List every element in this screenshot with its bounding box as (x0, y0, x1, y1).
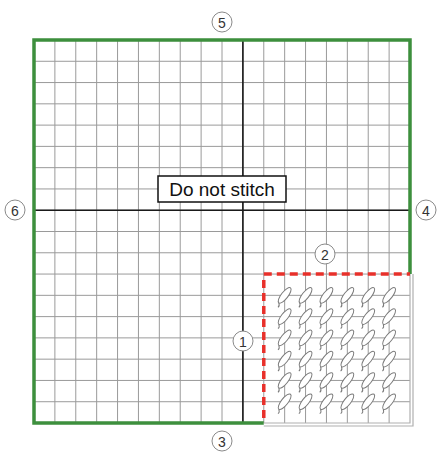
stitch-mark (274, 392, 294, 414)
stitch-mark (274, 286, 294, 308)
stitch-mark (315, 328, 335, 350)
stitch-mark (336, 392, 356, 414)
stitch-mark (357, 392, 377, 414)
stitch-mark (315, 350, 335, 372)
stitch-mark (336, 328, 356, 350)
canvas-diagram: Do not stitch 123456 (0, 0, 447, 462)
marker-number: 4 (422, 203, 430, 219)
stitch-mark (295, 392, 315, 414)
stitch-mark (378, 350, 398, 372)
stitch-mark (357, 307, 377, 329)
label-text: Do not stitch (169, 179, 275, 200)
stitch-mark (378, 392, 398, 414)
marker-number: 1 (239, 334, 247, 350)
marker-number: 2 (321, 247, 329, 263)
step-marker-3: 3 (212, 431, 232, 451)
stitch-marks (274, 286, 398, 415)
stitch-mark (378, 286, 398, 308)
stitch-mark (295, 307, 315, 329)
stitch-mark (357, 350, 377, 372)
stitch-mark (295, 350, 315, 372)
step-marker-5: 5 (212, 12, 232, 32)
stitch-mark (315, 392, 335, 414)
stitch-mark (315, 371, 335, 393)
stitch-mark (295, 286, 315, 308)
step-marker-1: 1 (233, 331, 253, 351)
stitch-mark (378, 307, 398, 329)
stitch-mark (295, 328, 315, 350)
stitch-mark (315, 286, 335, 308)
stitch-mark (378, 328, 398, 350)
stitch-mark (357, 328, 377, 350)
stitch-mark (274, 328, 294, 350)
stitch-mark (315, 307, 335, 329)
stitch-mark (336, 371, 356, 393)
marker-number: 3 (218, 434, 226, 450)
stitch-mark (295, 371, 315, 393)
marker-number: 5 (218, 15, 226, 31)
stitch-mark (336, 350, 356, 372)
stitch-mark (274, 307, 294, 329)
step-marker-4: 4 (416, 200, 436, 220)
stitch-mark (357, 371, 377, 393)
step-marker-2: 2 (315, 244, 335, 264)
marker-number: 6 (11, 203, 19, 219)
stitch-mark (274, 350, 294, 372)
canvas-border (34, 40, 413, 426)
do-not-stitch-label: Do not stitch (158, 176, 286, 202)
stitch-mark (357, 286, 377, 308)
step-marker-6: 6 (5, 200, 25, 220)
grid-lines (34, 40, 410, 423)
stitch-mark (336, 307, 356, 329)
stitch-mark (336, 286, 356, 308)
stitch-mark (274, 371, 294, 393)
stitch-mark (378, 371, 398, 393)
